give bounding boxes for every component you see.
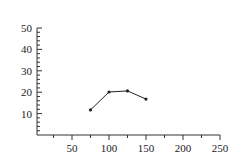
x-tick-label: 100 — [101, 142, 118, 154]
y-tick-label: 40 — [21, 43, 33, 55]
x-tick-label: 150 — [138, 142, 155, 154]
plot-area — [89, 89, 148, 111]
data-point — [89, 108, 92, 111]
x-tick-label: 50 — [67, 142, 79, 154]
line-chart: 102030405050100150200250 — [0, 0, 236, 164]
y-tick-label: 30 — [21, 65, 33, 77]
data-point — [144, 97, 147, 100]
x-tick-label: 200 — [175, 142, 192, 154]
y-tick-label: 10 — [21, 108, 33, 120]
x-tick-label: 250 — [212, 142, 229, 154]
y-tick-label: 50 — [21, 22, 33, 34]
data-point — [107, 90, 110, 93]
y-tick-label: 20 — [21, 86, 33, 98]
axes: 102030405050100150200250 — [21, 22, 229, 154]
data-point — [126, 89, 129, 92]
data-line — [91, 91, 147, 110]
